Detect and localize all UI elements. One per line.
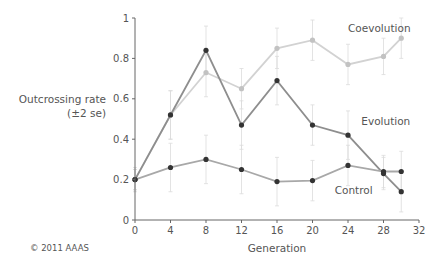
x-tick-label: 24	[342, 225, 355, 236]
data-point	[168, 165, 173, 170]
y-axis-label: Outcrossing rate (±2 se)	[19, 92, 106, 120]
y-tick-label: 0.2	[113, 174, 129, 185]
y-tick-label: 0.8	[113, 53, 129, 64]
y-tick-label: 1	[123, 13, 129, 24]
y-tick-label: 0.4	[113, 134, 129, 145]
x-tick-label: 0	[132, 225, 138, 236]
data-point	[310, 178, 315, 183]
x-axis-label: Generation	[248, 242, 307, 254]
y-axis-subtitle: (±2 se)	[19, 106, 106, 120]
data-point	[239, 122, 244, 127]
x-tick-label: 16	[271, 225, 284, 236]
series-line-coevolution	[135, 38, 401, 179]
x-tick-label: 4	[167, 225, 173, 236]
series-label-coevolution: Coevolution	[348, 22, 411, 34]
data-point	[345, 133, 350, 138]
y-tick-label: 0	[123, 215, 129, 226]
data-point	[399, 36, 404, 41]
data-point	[203, 157, 208, 162]
data-point	[168, 112, 173, 117]
x-tick-label: 12	[235, 225, 248, 236]
data-point	[399, 169, 404, 174]
y-tick-label: 0.6	[113, 93, 129, 104]
data-point	[310, 38, 315, 43]
data-point	[203, 48, 208, 53]
data-point	[274, 46, 279, 51]
data-point	[239, 167, 244, 172]
x-tick-label: 32	[413, 225, 426, 236]
series-line-control	[135, 159, 401, 181]
x-tick-label: 28	[377, 225, 390, 236]
y-axis-title: Outcrossing rate	[19, 92, 106, 106]
x-tick-label: 8	[203, 225, 209, 236]
data-point	[345, 163, 350, 168]
outcrossing-chart: 04812162024283200.20.40.60.81 Coevolutio…	[0, 0, 442, 270]
copyright-notice: © 2011 AAAS	[30, 243, 89, 253]
data-point	[239, 86, 244, 91]
series-label-control: Control	[335, 184, 373, 196]
data-point	[345, 62, 350, 67]
data-point	[203, 70, 208, 75]
series-label-evolution: Evolution	[361, 115, 410, 127]
data-point	[274, 179, 279, 184]
data-point	[381, 169, 386, 174]
data-point	[381, 54, 386, 59]
x-tick-label: 20	[306, 225, 319, 236]
data-point	[274, 78, 279, 83]
data-point	[310, 122, 315, 127]
data-point	[399, 189, 404, 194]
